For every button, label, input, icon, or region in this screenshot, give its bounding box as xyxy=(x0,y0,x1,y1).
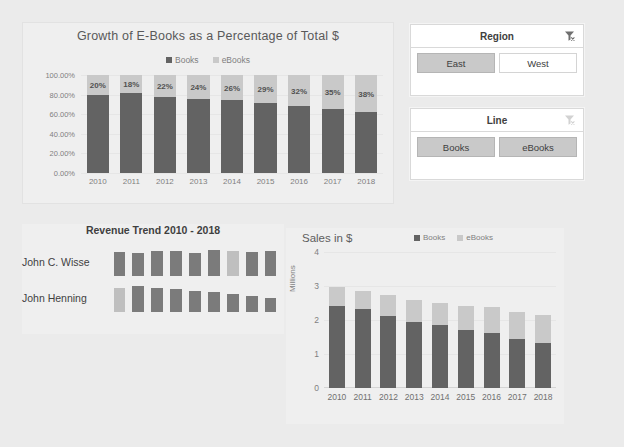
y-tick-label: 80.00% xyxy=(50,90,75,99)
slicer-region-title: Region xyxy=(480,31,514,42)
bar-segment-books xyxy=(120,93,142,173)
growth-percentage-x-axis: 201020112012201320142015201620172018 xyxy=(81,177,383,195)
slicer-line-title: Line xyxy=(487,115,508,126)
trend-bar[interactable] xyxy=(114,252,126,276)
y-tick-label: 20.00% xyxy=(50,149,75,158)
legend-label-books: Books xyxy=(423,233,445,242)
sales-chart-y-axis: 43210 xyxy=(300,252,322,388)
bar-column[interactable] xyxy=(329,252,345,388)
bar-column[interactable]: 24% xyxy=(187,75,209,173)
bar-column[interactable]: 35% xyxy=(322,75,344,173)
x-tick-label: 2011 xyxy=(350,392,376,402)
trend-bar[interactable] xyxy=(265,298,277,312)
slicer-region-button-east[interactable]: East xyxy=(417,53,495,73)
trend-bars-wisse xyxy=(110,244,280,280)
trend-bar[interactable] xyxy=(170,289,182,312)
growth-percentage-chart-title: Growth of E-Books as a Percentage of Tot… xyxy=(23,29,393,43)
bar-column[interactable]: 22% xyxy=(154,75,176,173)
bar-segment-books xyxy=(154,97,176,173)
bar-data-label: 22% xyxy=(154,82,176,91)
growth-percentage-plot-area: 20%18%22%24%26%29%32%35%38% xyxy=(81,75,383,173)
bar-column[interactable] xyxy=(509,252,525,388)
slicer-region-button-west[interactable]: West xyxy=(499,53,577,73)
trend-bar[interactable] xyxy=(189,253,201,276)
slicer-line-button-ebooks[interactable]: eBooks xyxy=(499,137,577,157)
x-tick-label: 2011 xyxy=(115,177,149,186)
x-tick-label: 2014 xyxy=(215,177,249,186)
bar-segment-books xyxy=(254,103,276,173)
bar-segment-books xyxy=(406,322,422,388)
trend-bar[interactable] xyxy=(114,288,126,312)
bar-column[interactable] xyxy=(458,252,474,388)
bar-column[interactable]: 29% xyxy=(254,75,276,173)
sales-chart-legend: Books eBooks xyxy=(414,233,493,242)
x-tick-label: 2017 xyxy=(316,177,350,186)
bar-column[interactable] xyxy=(535,252,551,388)
gridline xyxy=(81,173,383,174)
slicer-line[interactable]: Line Books eBooks xyxy=(410,108,584,180)
trend-bar[interactable] xyxy=(246,252,258,276)
legend-item-ebooks: eBooks xyxy=(213,55,250,65)
legend-swatch-books-icon xyxy=(414,235,420,241)
trend-bar[interactable] xyxy=(132,253,144,276)
bar-segment-books xyxy=(484,333,500,388)
bar-segment-ebooks xyxy=(355,291,371,309)
x-tick-label: 2012 xyxy=(376,392,402,402)
bar-data-label: 24% xyxy=(187,83,209,92)
bar-segment-ebooks xyxy=(406,300,422,322)
growth-percentage-chart[interactable]: Growth of E-Books as a Percentage of Tot… xyxy=(22,22,394,204)
x-tick-label: 2010 xyxy=(81,177,115,186)
clear-filter-icon[interactable] xyxy=(562,28,578,44)
slicer-region[interactable]: Region East West xyxy=(410,24,584,96)
bar-column[interactable]: 26% xyxy=(221,75,243,173)
y-tick-label: 0.00% xyxy=(54,169,75,178)
slicer-region-buttons: East West xyxy=(411,48,583,78)
trend-bar[interactable] xyxy=(208,250,220,276)
bar-data-label: 20% xyxy=(87,81,109,90)
slicer-line-buttons: Books eBooks xyxy=(411,132,583,162)
legend-swatch-books-icon xyxy=(166,57,172,63)
trend-bar[interactable] xyxy=(170,251,182,276)
sales-chart-x-axis: 201020112012201320142015201620172018 xyxy=(324,392,556,408)
sales-chart[interactable]: Sales in $ Books eBooks Millions 43210 2… xyxy=(286,228,564,424)
x-tick-label: 2015 xyxy=(453,392,479,402)
y-tick-label: 100.00% xyxy=(45,71,75,80)
revenue-trend-chart[interactable]: Revenue Trend 2010 - 2018 John C. Wisse … xyxy=(22,224,284,334)
legend-item-books: Books xyxy=(414,233,445,242)
slicer-line-button-books[interactable]: Books xyxy=(417,137,495,157)
legend-swatch-ebooks-icon xyxy=(457,235,463,241)
trend-bar[interactable] xyxy=(227,294,239,312)
clear-filter-icon[interactable] xyxy=(562,112,578,128)
bar-column[interactable] xyxy=(380,252,396,388)
bar-segment-ebooks xyxy=(535,315,551,343)
bar-column[interactable]: 38% xyxy=(355,75,377,173)
trend-bar[interactable] xyxy=(265,251,277,276)
trend-bar[interactable] xyxy=(208,292,220,312)
bar-segment-books xyxy=(288,106,310,173)
trend-bar[interactable] xyxy=(189,291,201,312)
trend-bar[interactable] xyxy=(227,251,239,276)
bar-column[interactable] xyxy=(355,252,371,388)
trend-row-wisse: John C. Wisse xyxy=(22,244,284,280)
bar-column[interactable] xyxy=(484,252,500,388)
x-tick-label: 2013 xyxy=(182,177,216,186)
bar-data-label: 29% xyxy=(254,85,276,94)
bar-column[interactable]: 20% xyxy=(87,75,109,173)
bar-segment-books xyxy=(458,330,474,388)
legend-swatch-ebooks-icon xyxy=(213,57,219,63)
bar-column[interactable] xyxy=(406,252,422,388)
x-tick-label: 2010 xyxy=(324,392,350,402)
y-tick-label: 0 xyxy=(314,383,319,393)
trend-bar[interactable] xyxy=(246,296,258,312)
sales-chart-y-axis-title: Millions xyxy=(288,265,297,292)
y-tick-label: 4 xyxy=(314,247,319,257)
legend-label-books: Books xyxy=(175,55,199,65)
bar-column[interactable]: 18% xyxy=(120,75,142,173)
trend-bar[interactable] xyxy=(151,251,163,276)
trend-bar[interactable] xyxy=(151,288,163,312)
bar-data-label: 26% xyxy=(221,84,243,93)
bar-column[interactable]: 32% xyxy=(288,75,310,173)
trend-row-henning: John Henning xyxy=(22,280,284,316)
trend-bar[interactable] xyxy=(132,286,144,312)
bar-column[interactable] xyxy=(432,252,448,388)
